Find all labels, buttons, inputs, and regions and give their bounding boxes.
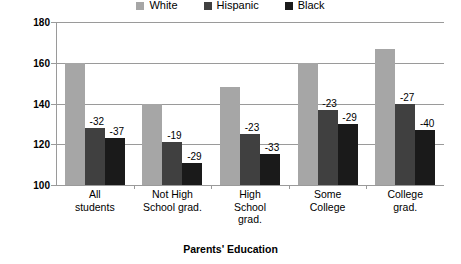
data-label: -33 (265, 142, 279, 153)
data-label: -23 (322, 98, 336, 109)
x-axis-category: All students (56, 188, 134, 213)
legend-item-white: White (136, 0, 177, 11)
legend-swatch-icon (136, 2, 144, 10)
y-axis-label-180: 180 (4, 17, 50, 28)
y-axis-label-100: 100 (4, 180, 50, 191)
gridline-100 (56, 185, 444, 186)
plot-area: -32-37-19-29-23-33-23-29-27-40 (56, 22, 444, 185)
legend-swatch-icon (285, 2, 293, 10)
data-label: -27 (400, 92, 414, 103)
bar-hispanic (395, 104, 415, 186)
data-label: -29 (187, 151, 201, 162)
y-axis-labels: 100120140160180 (0, 0, 50, 264)
bar-white (65, 63, 85, 185)
bar-hispanic (240, 134, 260, 185)
bar-black (182, 163, 202, 185)
bar-group: -19-29 (134, 22, 212, 185)
bar-group: -32-37 (56, 22, 134, 185)
x-axis-category: Not High School grad. (134, 188, 212, 213)
bar-white (298, 63, 318, 185)
legend-label: White (149, 0, 177, 11)
data-label: -32 (90, 116, 104, 127)
bar-black (260, 154, 280, 185)
bar-white (220, 87, 240, 185)
legend-label: Hispanic (217, 0, 259, 11)
y-tick-100 (51, 185, 56, 186)
data-label: -19 (167, 130, 181, 141)
bar-white (375, 49, 395, 186)
x-axis-tick (289, 185, 290, 189)
bar-group: -23-29 (289, 22, 367, 185)
y-axis-label-160: 160 (4, 57, 50, 68)
data-label: -40 (420, 118, 434, 129)
legend-label: Black (298, 0, 325, 11)
data-label: -37 (110, 126, 124, 137)
x-axis-category: High School grad. (211, 188, 289, 226)
x-axis-category: College grad. (366, 188, 444, 213)
legend-swatch-icon (204, 2, 212, 10)
bar-hispanic (162, 142, 182, 185)
data-label: -29 (342, 112, 356, 123)
bar-white (142, 104, 162, 186)
bar-black (105, 138, 125, 185)
x-axis-tick (134, 185, 135, 189)
bar-black (338, 124, 358, 185)
x-axis-category: Some College (289, 188, 367, 213)
x-axis-category-labels: All studentsNot High School grad.High Sc… (56, 188, 444, 240)
x-axis-tick (211, 185, 212, 189)
bar-black (415, 130, 435, 185)
legend-item-hispanic: Hispanic (204, 0, 259, 11)
bar-hispanic (85, 128, 105, 185)
y-axis-label-120: 120 (4, 139, 50, 150)
bar-group: -27-40 (366, 22, 444, 185)
legend-item-black: Black (285, 0, 325, 11)
data-label: -23 (245, 122, 259, 133)
chart-legend: WhiteHispanicBlack (0, 0, 461, 11)
bar-hispanic (318, 110, 338, 185)
x-axis-title: Parents' Education (0, 243, 461, 255)
x-axis-tick (366, 185, 367, 189)
bar-chart: 100120140160180 -32-37-19-29-23-33-23-29… (0, 0, 461, 264)
bar-group: -23-33 (211, 22, 289, 185)
y-axis-label-140: 140 (4, 98, 50, 109)
